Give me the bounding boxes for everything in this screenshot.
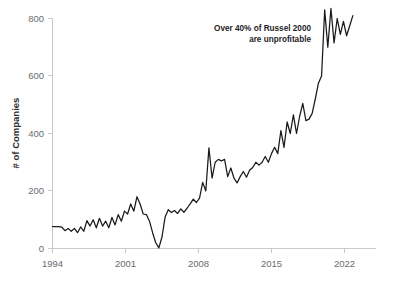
chart-container: 800 600 400 200 0 1994 2001 2008 2015 20… — [0, 0, 396, 287]
y-axis-title: # of Companies — [10, 98, 21, 169]
x-tick-label-2022: 2022 — [334, 258, 355, 269]
y-tick-label-0: 0 — [39, 243, 44, 254]
y-tick-label-600: 600 — [28, 70, 44, 81]
x-tick-label-2015: 2015 — [261, 258, 282, 269]
line-chart: 800 600 400 200 0 1994 2001 2008 2015 20… — [0, 0, 396, 287]
x-tick-marks — [53, 249, 345, 254]
annotation-line-2: are unprofitable — [249, 35, 311, 44]
x-tick-label-2008: 2008 — [188, 258, 209, 269]
y-tick-label-400: 400 — [28, 128, 44, 139]
annotation-line-1: Over 40% of Russel 2000 — [214, 24, 311, 33]
series-line-unprofitable-companies — [53, 8, 353, 247]
x-tick-label-2001: 2001 — [115, 258, 136, 269]
y-tick-label-800: 800 — [28, 13, 44, 24]
y-tick-label-200: 200 — [28, 185, 44, 196]
x-tick-label-1994: 1994 — [42, 258, 63, 269]
y-tick-marks — [48, 19, 53, 249]
